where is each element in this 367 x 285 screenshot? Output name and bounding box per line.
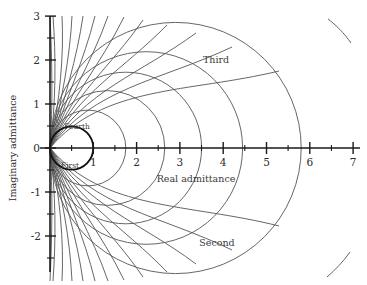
chart-svg: 1 2 3 4 5 6 7 3 2 1 0 -1 -2 Imaginary ad… [0,0,367,285]
admittance-chart: 1 2 3 4 5 6 7 3 2 1 0 -1 -2 Imaginary ad… [0,0,367,285]
y-tick-label-0: 0 [33,142,40,154]
annotation-second: Second [199,237,234,248]
annotation-first: First [61,161,79,170]
y-tick-label-minus-1: -1 [31,186,41,198]
y-tick-label-minus-2: -2 [31,230,41,242]
x-axis-title: Real admittance [157,173,236,184]
x-tick-label-3: 3 [177,156,184,168]
y-tick-label-3: 3 [33,10,40,22]
susceptance-arcs-lower [50,148,279,281]
y-tick-label-1: 1 [33,98,40,110]
y-tick-label-2: 2 [33,54,40,66]
annotation-fourth: Fourth [64,122,90,131]
annotation-third: Third [203,54,229,65]
x-tick-label-5: 5 [263,156,270,168]
y-axis-title: Imaginary admittance [7,94,18,201]
x-tick-label-6: 6 [306,156,313,168]
x-tick-label-7: 7 [350,156,357,168]
x-tick-label-4: 4 [220,156,227,168]
x-tick-label-1: 1 [90,156,97,168]
x-tick-label-2: 2 [133,156,140,168]
